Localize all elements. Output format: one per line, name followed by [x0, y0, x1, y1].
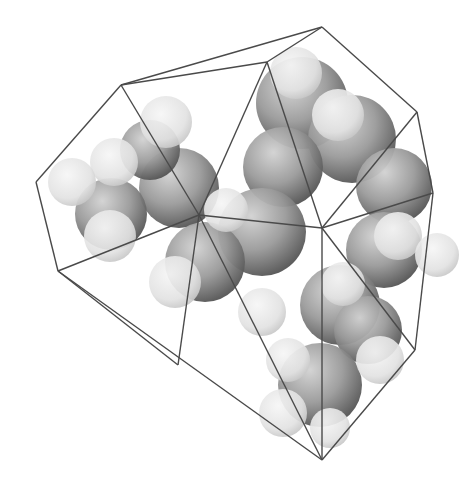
- atom-sphere-small: [356, 336, 404, 384]
- atom-sphere-small: [374, 212, 422, 260]
- molecular-polyhedron-figure: [0, 0, 464, 500]
- atom-sphere-small: [84, 210, 136, 262]
- atom-sphere-small: [266, 338, 310, 382]
- atom-sphere-small: [415, 233, 459, 277]
- atom-sphere-small: [90, 138, 138, 186]
- atom-sphere-small: [321, 262, 365, 306]
- atom-sphere-small: [204, 188, 248, 232]
- atom-sphere-small: [140, 96, 192, 148]
- atom-sphere-small: [238, 288, 286, 336]
- atom-sphere-small: [310, 408, 350, 448]
- atom-sphere-small: [312, 89, 364, 141]
- polyhedron-edge: [121, 62, 267, 85]
- atom-sphere-small: [259, 389, 307, 437]
- atom-sphere-small: [48, 158, 96, 206]
- atom-sphere-small: [149, 256, 201, 308]
